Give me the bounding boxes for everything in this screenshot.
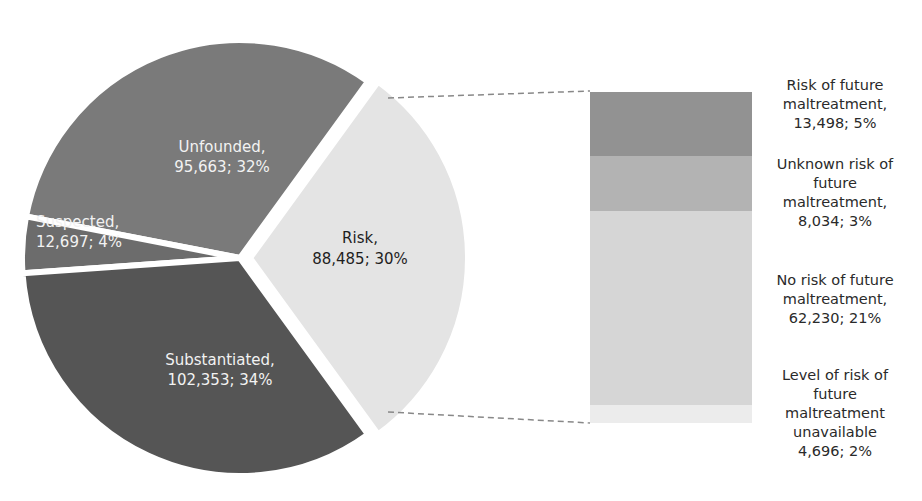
label-suspected-name: Suspected, <box>36 213 119 231</box>
bar-label-line: maltreatment, <box>748 290 922 309</box>
label-substantiated-name: Substantiated, <box>165 351 275 369</box>
bar-label-unknown-risk: Unknown risk of future maltreatment, 8,0… <box>748 155 922 231</box>
bar-label-line: maltreatment, <box>748 95 922 114</box>
bar-label-line: 62,230; 21% <box>748 309 922 328</box>
bar-segment-risk[interactable] <box>590 92 752 156</box>
label-risk-name: Risk, <box>342 229 378 247</box>
bar-label-no-risk: No risk of future maltreatment, 62,230; … <box>748 271 922 328</box>
bar-segment-no-risk[interactable] <box>590 211 752 405</box>
bar-label-line: Unknown risk of <box>748 155 922 174</box>
bar-label-line: maltreatment, <box>748 193 922 212</box>
bar-label-line: Risk of future <box>748 76 922 95</box>
bar-label-risk: Risk of future maltreatment, 13,498; 5% <box>748 76 922 133</box>
bar-label-line: No risk of future <box>748 271 922 290</box>
bar-label-line: 4,696; 2% <box>748 442 922 461</box>
bar-label-line: future <box>748 174 922 193</box>
bar-label-line: unavailable <box>748 423 922 442</box>
bar-label-line: Level of risk of <box>748 366 922 385</box>
bar-segment-unavailable[interactable] <box>590 405 752 423</box>
connector-line-bottom <box>388 412 590 423</box>
bar-label-line: 8,034; 3% <box>748 212 922 231</box>
label-substantiated-value: 102,353; 34% <box>167 371 272 389</box>
bar-label-unavailable: Level of risk of future maltreatment una… <box>748 366 922 461</box>
bar-label-line: maltreatment <box>748 404 922 423</box>
label-unfounded-name: Unfounded, <box>179 138 266 156</box>
connector-line-top <box>388 91 590 98</box>
bar-label-line: future <box>748 385 922 404</box>
label-unfounded-value: 95,663; 32% <box>174 158 270 176</box>
label-risk-value: 88,485; 30% <box>312 250 408 268</box>
bar-segment-unknown-risk[interactable] <box>590 156 752 211</box>
label-suspected-value: 12,697; 4% <box>36 233 122 251</box>
bar-label-line: 13,498; 5% <box>748 114 922 133</box>
